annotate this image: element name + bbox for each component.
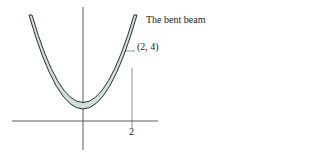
curve-label: The bent beam bbox=[146, 15, 205, 25]
point-label: (2, 4) bbox=[137, 42, 159, 52]
x-tick-label: 2 bbox=[129, 127, 134, 137]
